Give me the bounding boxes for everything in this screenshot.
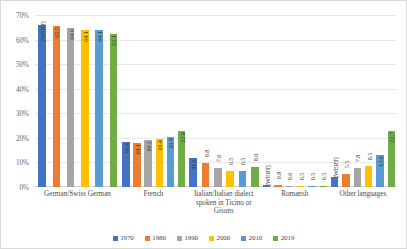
bar[interactable]: 0.8: [274, 185, 282, 187]
bar[interactable]: 64.6: [67, 28, 75, 187]
bar[interactable]: 65.5: [53, 26, 61, 187]
bar-group: [WERT]5.57.88.513.022.7: [329, 15, 397, 187]
legend-item[interactable]: 2019: [273, 234, 294, 242]
bar-slot: 7.8: [352, 15, 363, 187]
y-axis-tick-label: 70%: [16, 11, 29, 20]
bar-slot: 8.5: [363, 15, 374, 187]
bar-value-label: 0.6: [286, 172, 293, 179]
bar[interactable]: 6.5: [226, 171, 234, 187]
x-axis-label: French: [120, 188, 187, 224]
bar-value-label: 18.4: [122, 143, 129, 153]
legend-label: 1980: [152, 234, 166, 242]
bar[interactable]: 7.8: [354, 168, 362, 187]
y-axis-tick-label: 30%: [16, 109, 29, 118]
bar[interactable]: 5.5: [342, 174, 350, 188]
bar-groups: [WERT]65.564.664.164.162.118.418.119.219…: [35, 15, 397, 187]
y-axis-tick-label: 60%: [16, 35, 29, 44]
bar-value-label: 64.6: [67, 30, 74, 40]
y-axis-tick-label: 40%: [16, 84, 29, 93]
bar-value-label: 5.5: [342, 160, 349, 167]
bar-value-label: 64.1: [96, 31, 103, 41]
legend-label: 2010: [249, 234, 263, 242]
bar-slot: 0.8: [272, 15, 283, 187]
bar-slot: 0.6: [284, 15, 295, 187]
chart-container: 0%10%20%30%40%50%60%70% [WERT]65.564.664…: [0, 0, 407, 249]
bar[interactable]: 19.4: [156, 139, 164, 187]
bar-slot: 19.4: [154, 15, 165, 187]
bar[interactable]: 8.0: [251, 167, 259, 187]
legend-label: 2000: [217, 234, 231, 242]
bar[interactable]: 19.2: [144, 140, 152, 187]
bar-value-label: 6.5: [227, 158, 234, 165]
bar-slot: 64.1: [92, 15, 106, 187]
legend-swatch-icon: [113, 236, 118, 241]
legend-item[interactable]: 1990: [177, 234, 198, 242]
bar[interactable]: [WERT]: [331, 177, 339, 187]
y-axis-labels: 0%10%20%30%40%50%60%70%: [1, 15, 33, 187]
legend-item[interactable]: 2010: [241, 234, 262, 242]
bar[interactable]: 62.1: [110, 34, 118, 187]
bar-slot: 9.8: [199, 15, 211, 187]
bar-group: [WERT]0.80.60.50.50.5: [261, 15, 329, 187]
bar-slot: 7.6: [212, 15, 224, 187]
bar[interactable]: 6.5: [239, 171, 247, 187]
bar-value-label: [WERT]: [263, 165, 270, 186]
legend-item[interactable]: 2000: [209, 234, 230, 242]
legend-item[interactable]: 1980: [145, 234, 166, 242]
bar-slot: 6.5: [236, 15, 248, 187]
bar[interactable]: 8.5: [365, 166, 373, 187]
bar[interactable]: 7.6: [214, 168, 222, 187]
bar[interactable]: 22.8: [178, 131, 186, 187]
bar-slot: 18.1: [132, 15, 143, 187]
bar-value-label: [WERT]: [39, 21, 46, 42]
bar-group: [WERT]65.564.664.164.162.1: [35, 15, 120, 187]
bar[interactable]: 13.0: [376, 155, 384, 187]
bar[interactable]: 0.6: [286, 186, 294, 187]
bar-value-label: 13.0: [377, 156, 384, 166]
bar-slot: 22.8: [176, 15, 187, 187]
bar[interactable]: 64.1: [95, 30, 103, 188]
bar-value-label: 6.5: [239, 158, 246, 165]
legend-label: 1970: [120, 234, 134, 242]
legend-item[interactable]: 1970: [113, 234, 134, 242]
bar-slot: 6.5: [224, 15, 236, 187]
x-axis-category-labels: German/Swiss GermanFrenchItalian/Italian…: [35, 188, 397, 224]
bar[interactable]: 18.4: [122, 142, 130, 187]
bar[interactable]: 9.8: [202, 163, 210, 187]
bar-slot: 62.1: [106, 15, 120, 187]
bar-group: 18.418.119.219.420.422.8: [120, 15, 187, 187]
bar-value-label: 65.5: [53, 27, 60, 37]
bar-slot: 11.9: [187, 15, 199, 187]
bar-slot: [WERT]: [261, 15, 272, 187]
bar[interactable]: 0.5: [297, 186, 305, 187]
y-axis-tick-label: 20%: [16, 133, 29, 142]
bar-slot: 22.7: [386, 15, 397, 187]
bar-slot: 0.5: [318, 15, 329, 187]
bar-value-label: 9.8: [202, 150, 209, 157]
bar-slot: 65.5: [49, 15, 63, 187]
bar[interactable]: 18.1: [133, 143, 141, 187]
bar-slot: 13.0: [374, 15, 385, 187]
bar[interactable]: 0.5: [308, 186, 316, 187]
bar[interactable]: 11.9: [189, 158, 197, 187]
bar[interactable]: [WERT]: [38, 25, 46, 187]
bar-value-label: 62.1: [110, 36, 117, 46]
bar-slot: 64.1: [78, 15, 92, 187]
bar[interactable]: 22.7: [388, 131, 396, 187]
bar-value-label: 64.1: [81, 31, 88, 41]
bar-value-label: 8.0: [251, 154, 258, 161]
bar[interactable]: [WERT]: [263, 185, 271, 187]
bar-value-label: [WERT]: [331, 157, 338, 178]
bar-group: 11.99.87.66.56.58.0: [187, 15, 261, 187]
bar-slot: 64.6: [63, 15, 77, 187]
bar-slot: 8.0: [249, 15, 261, 187]
bar[interactable]: 20.4: [167, 137, 175, 187]
legend-swatch-icon: [145, 236, 150, 241]
bar-slot: 18.4: [120, 15, 131, 187]
bar[interactable]: 0.5: [320, 186, 328, 187]
bar[interactable]: 64.1: [81, 30, 89, 188]
x-axis-label: Italian/Italian dialect spoken in Ticino…: [187, 188, 261, 224]
bar-slot: 5.5: [340, 15, 351, 187]
x-axis-label: Romansh: [261, 188, 329, 224]
plot-area: [WERT]65.564.664.164.162.118.418.119.219…: [35, 15, 397, 187]
